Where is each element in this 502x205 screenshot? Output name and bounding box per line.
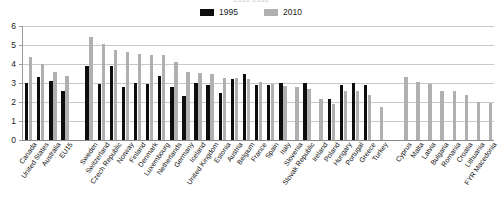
y-tick-label-1: 1 (11, 117, 16, 126)
x-axis-category-labels: CanadaUnited StatesAustraliaEU15SwedenSw… (22, 141, 494, 205)
y-tick-label-4: 4 (11, 60, 16, 69)
legend-label-1995: 1995 (219, 8, 238, 17)
y-axis-tick-labels: 0123456 (0, 26, 20, 140)
chart-legend: 19952010 (0, 8, 502, 17)
legend-swatch-2010 (264, 9, 278, 16)
legend-item-2010[interactable]: 2010 (264, 8, 302, 17)
chart-title: 2010 1995 (0, 0, 502, 3)
legend-item-1995[interactable]: 1995 (200, 8, 238, 17)
y-tick-label-6: 6 (11, 22, 16, 31)
bar-1995-sweden (85, 66, 88, 140)
bar-1995-canada (25, 83, 28, 140)
bar-2010-cyprus (404, 77, 407, 140)
y-tick-label-2: 2 (11, 98, 16, 107)
bar-chart: 2010 1995 19952010 0123456 CanadaUnited … (0, 0, 502, 205)
bar-2010-canada (29, 57, 32, 140)
y-tick-label-0: 0 (11, 136, 16, 145)
legend-label-2010: 2010 (283, 8, 302, 17)
y-tick-label-5: 5 (11, 41, 16, 50)
bar-2010-sweden (89, 37, 92, 140)
y-tick-label-3: 3 (11, 79, 16, 88)
legend-swatch-1995 (200, 9, 214, 16)
bar-series-container (22, 26, 494, 140)
plot-area (22, 26, 494, 140)
